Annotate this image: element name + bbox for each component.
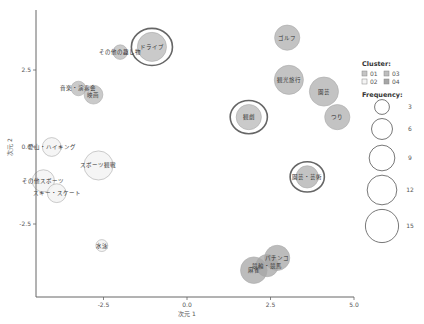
frequency-circle <box>375 100 390 115</box>
bubble-label: 麻雀 <box>248 266 260 274</box>
x-tick-label: -2.5 <box>98 301 110 308</box>
x-tick-label: 0.0 <box>182 301 192 308</box>
bubble-label: ゴルフ <box>278 34 296 41</box>
bubble-label: スキー・スケート <box>33 190 81 196</box>
frequency-legend-title: Frequency: <box>362 91 403 99</box>
frequency-circle <box>365 209 398 242</box>
bubble-label: つり <box>331 114 343 121</box>
bubble-label: 水泳 <box>96 242 108 250</box>
bubble-label: パチンコ <box>265 255 289 261</box>
cluster-swatch-03 <box>384 71 389 76</box>
y-axis-title: 次元 2 <box>6 138 14 156</box>
cluster-legend-label: 03 <box>392 70 400 77</box>
frequency-legend-label: 12 <box>406 186 414 193</box>
x-tick-label: 5.0 <box>349 301 359 308</box>
legend: Cluster: 01020304 Frequency: 3691215 <box>362 60 414 243</box>
y-tick-label: 2.5 <box>21 66 31 73</box>
bubble-label: 観劇 <box>243 113 255 121</box>
frequency-legend-label: 15 <box>406 222 414 229</box>
frequency-legend: 3691215 <box>365 100 414 243</box>
frequency-circle <box>367 175 397 205</box>
cluster-swatch-01 <box>362 71 367 76</box>
frequency-legend-label: 6 <box>408 125 412 132</box>
x-axis-title: 次元 1 <box>178 310 196 318</box>
frequency-circle <box>369 145 395 171</box>
cluster-swatch-02 <box>362 79 367 84</box>
bubble-label: 園芸・芸術 <box>292 173 322 181</box>
bubble-label: その他の趣し物 <box>99 48 141 56</box>
bubble-chart: ドライブその他の趣し物音楽・演奏会映画ゴルフ観光旅行園芸つり観劇園芸・芸術登山・… <box>0 0 424 324</box>
frequency-legend-label: 3 <box>408 103 412 110</box>
y-tick-label: -2.5 <box>19 220 31 227</box>
bubble-label: スポーツ観戦 <box>80 161 116 169</box>
cluster-legend: 01020304 <box>362 70 400 85</box>
y-tick-label: 0.0 <box>21 143 31 150</box>
cluster-legend-label: 04 <box>392 78 400 85</box>
cluster-legend-label: 01 <box>370 70 378 77</box>
cluster-legend-label: 02 <box>370 78 378 85</box>
plot-area: ドライブその他の趣し物音楽・演奏会映画ゴルフ観光旅行園芸つり観劇園芸・芸術登山・… <box>22 25 350 283</box>
cluster-legend-title: Cluster: <box>362 60 391 68</box>
bubble-label: 園芸 <box>318 88 330 96</box>
cluster-swatch-04 <box>384 79 389 84</box>
frequency-legend-label: 9 <box>408 154 412 161</box>
bubble-label: 映画 <box>87 91 99 99</box>
bubble-label: 観光旅行 <box>277 76 301 84</box>
x-tick-label: 2.5 <box>266 301 276 308</box>
axes: -2.50.02.55.0 -2.50.02.5 次元 1 次元 2 <box>6 10 359 318</box>
frequency-circle <box>372 119 393 140</box>
x-ticks: -2.50.02.55.0 <box>98 297 359 308</box>
bubble-label: ドライブ <box>140 43 164 50</box>
bubble-label: その他スポーツ <box>22 177 64 185</box>
bubbles-layer <box>32 25 350 283</box>
